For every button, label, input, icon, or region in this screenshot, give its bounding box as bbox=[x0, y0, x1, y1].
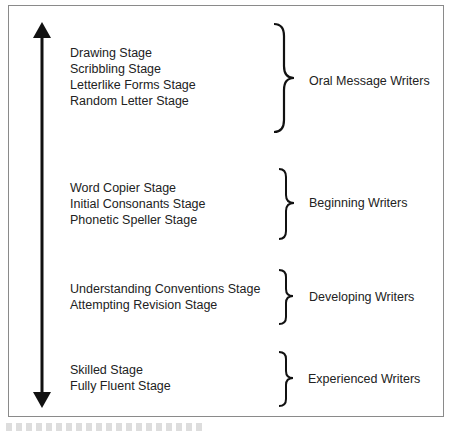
stage-list-developing: Understanding Conventions Stage Attempti… bbox=[70, 281, 260, 313]
stage-item: Skilled Stage bbox=[70, 362, 171, 378]
brace-icon bbox=[270, 22, 300, 134]
brace-icon bbox=[276, 167, 300, 241]
caption-fragment bbox=[6, 423, 206, 431]
stage-item: Scribbling Stage bbox=[70, 61, 196, 77]
stage-item: Drawing Stage bbox=[70, 45, 196, 61]
group-label-developing: Developing Writers bbox=[309, 290, 414, 304]
brace-icon bbox=[276, 350, 300, 408]
stage-item: Word Copier Stage bbox=[70, 180, 206, 196]
brace-icon bbox=[276, 268, 300, 326]
stage-list-oral-message: Drawing Stage Scribbling Stage Letterlik… bbox=[70, 45, 196, 109]
stage-item: Understanding Conventions Stage bbox=[70, 281, 260, 297]
stage-list-experienced: Skilled Stage Fully Fluent Stage bbox=[70, 362, 171, 394]
group-label-oral-message: Oral Message Writers bbox=[309, 74, 430, 88]
stage-item: Random Letter Stage bbox=[70, 93, 196, 109]
stage-list-beginning: Word Copier Stage Initial Consonants Sta… bbox=[70, 180, 206, 228]
stage-item: Attempting Revision Stage bbox=[70, 297, 260, 313]
group-label-experienced: Experienced Writers bbox=[308, 372, 420, 386]
stage-item: Initial Consonants Stage bbox=[70, 196, 206, 212]
stage-item: Fully Fluent Stage bbox=[70, 378, 171, 394]
stage-item: Phonetic Speller Stage bbox=[70, 212, 206, 228]
stage-item: Letterlike Forms Stage bbox=[70, 77, 196, 93]
group-label-beginning: Beginning Writers bbox=[309, 196, 407, 210]
